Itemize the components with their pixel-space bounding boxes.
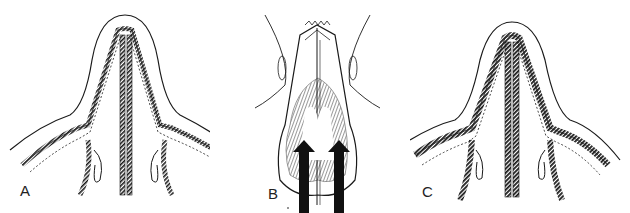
panel-label-c: C (422, 183, 433, 200)
medical-figure: A (0, 0, 630, 213)
nasal-cross-section-thickened-illustration (410, 0, 630, 213)
panel-label-a: A (20, 182, 30, 199)
nasal-inferior-view-illustration (210, 0, 420, 213)
panel-c: C (410, 0, 630, 213)
panel-b: B (210, 0, 420, 213)
panel-label-b: B (268, 185, 278, 202)
nasal-cross-section-illustration (0, 0, 210, 213)
panel-a: A (0, 0, 210, 213)
